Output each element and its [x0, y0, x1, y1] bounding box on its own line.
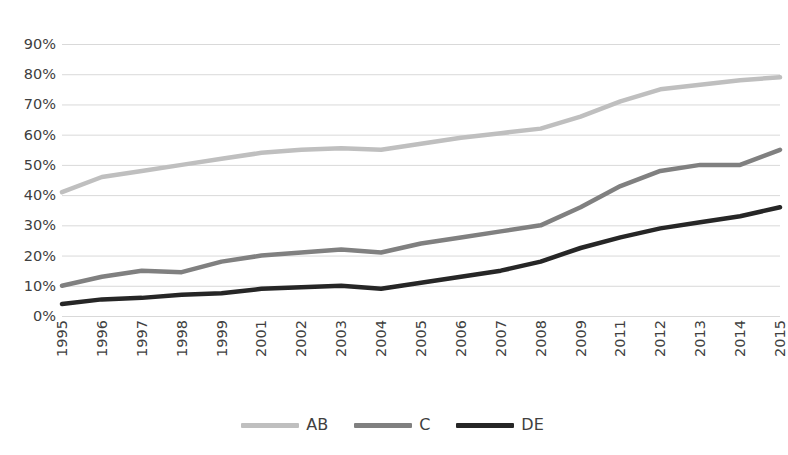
x-axis-tick-label: 1998: [174, 320, 190, 357]
x-axis-tick-label: 2014: [732, 320, 748, 357]
y-axis-tick-label: 10%: [24, 278, 56, 294]
x-axis-tick-label: 2005: [413, 320, 429, 357]
y-axis-tick-label: 90%: [24, 36, 56, 52]
x-axis-tick-label: 2011: [612, 320, 628, 357]
x-axis-tick-label: 1996: [94, 320, 110, 357]
plot-area: [62, 44, 780, 316]
legend-swatch-de-icon: [456, 423, 514, 428]
legend-entry-c[interactable]: C: [354, 417, 430, 433]
y-axis: 90%80%70%60%50%40%30%20%10%0%: [0, 44, 56, 316]
legend-entry-de[interactable]: DE: [456, 417, 543, 433]
x-axis: 1995199619971998199920012002200320042005…: [62, 320, 780, 398]
x-axis-tick-label: 2001: [253, 320, 269, 357]
x-axis-tick-label: 2008: [533, 320, 549, 357]
x-axis-tick-label: 2006: [453, 320, 469, 357]
y-axis-tick-label: 50%: [24, 157, 56, 173]
x-axis-tick-label: 2012: [652, 320, 668, 357]
x-axis-tick-label: 1997: [134, 320, 150, 357]
series-line-de: [62, 207, 780, 304]
x-axis-tick-label: 2004: [373, 320, 389, 357]
chart-legend: ABCDE: [0, 405, 785, 445]
legend-swatch-ab-icon: [241, 423, 299, 428]
x-axis-tick-label: 2003: [333, 320, 349, 357]
x-axis-tick-label: 2013: [692, 320, 708, 357]
y-axis-tick-label: 30%: [24, 217, 56, 233]
y-axis-tick-label: 60%: [24, 127, 56, 143]
legend-entry-ab[interactable]: AB: [241, 417, 328, 433]
y-axis-tick-label: 0%: [33, 308, 56, 324]
x-axis-tick-label: 2009: [573, 320, 589, 357]
legend-swatch-c-icon: [354, 423, 412, 428]
y-axis-tick-label: 40%: [24, 187, 56, 203]
legend-label: C: [419, 417, 430, 433]
series-line-c: [62, 150, 780, 286]
y-axis-tick-label: 20%: [24, 248, 56, 264]
legend-label: DE: [521, 417, 543, 433]
x-axis-tick-label: 2007: [493, 320, 509, 357]
legend-label: AB: [306, 417, 328, 433]
x-axis-tick-label: 1995: [54, 320, 70, 357]
x-axis-tick-label: 2002: [293, 320, 309, 357]
series-line-ab: [62, 77, 780, 192]
x-axis-tick-label: 2015: [772, 320, 788, 357]
series-lines: [62, 44, 780, 316]
y-axis-tick-label: 80%: [24, 66, 56, 82]
y-axis-tick-label: 70%: [24, 96, 56, 112]
x-axis-tick-label: 1999: [214, 320, 230, 357]
